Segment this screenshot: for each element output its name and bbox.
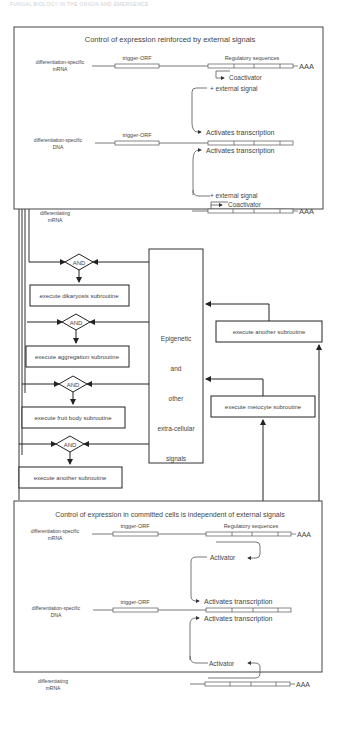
row-label: DNA <box>51 612 62 618</box>
orf-label: trigger-ORF <box>122 55 152 61</box>
and-label: AND <box>67 382 80 388</box>
bottom-panel-title: Control of expression in committed cells… <box>55 511 285 519</box>
row-label: mRNA <box>53 66 68 72</box>
trigger-orf-box <box>115 141 159 145</box>
coactivator-label: Coactivator <box>229 74 263 81</box>
and-label: AND <box>70 320 83 326</box>
orf-label: trigger-ORF <box>122 132 152 138</box>
row-label: DNA <box>53 144 64 150</box>
row-label: differentiation-specific <box>32 605 81 611</box>
poly-a-tail: AAA <box>299 207 314 216</box>
activates-transcription-label: Activates transcription <box>206 129 275 137</box>
reg-label: Regulatory sequences <box>224 523 279 529</box>
poly-a-tail: AAA <box>299 62 314 71</box>
row-label: mRNA <box>48 535 63 541</box>
subroutine-label: execute meiocyte subroutine <box>225 404 302 410</box>
activator-label: Activator <box>209 660 235 667</box>
activates-transcription-label: Activates transcription <box>206 147 275 155</box>
center-box-line: Epigenetic <box>161 335 192 343</box>
activates-transcription-label: Activates transcription <box>204 598 273 606</box>
top-panel: Control of expression reinforced by exte… <box>14 27 323 223</box>
flowchart: AAA Epigenetic and other extra-cellular … <box>19 207 322 505</box>
center-box-line: extra-cellular <box>157 425 195 432</box>
center-box-line: and <box>171 365 182 372</box>
subroutine-label: execute dikaryosis subroutine <box>39 293 119 299</box>
center-box-line: signals <box>166 455 187 463</box>
orf-label: trigger-ORF <box>120 523 150 529</box>
row-label: differentiating <box>38 678 68 684</box>
activator-label: Activator <box>210 554 236 561</box>
row-label: differentiation-specific <box>34 137 83 143</box>
top-panel-title: Control of expression reinforced by exte… <box>85 35 256 44</box>
row-label: mRNA <box>46 685 61 691</box>
center-box-line: other <box>169 395 185 402</box>
subroutine-label: execute fruit body subroutine <box>34 415 112 421</box>
bottom-panel: Control of expression in committed cells… <box>14 501 322 691</box>
orf-label: trigger-ORF <box>120 599 150 605</box>
row-label: differentiation-specific <box>36 59 85 65</box>
poly-a-tail: AAA <box>296 681 310 688</box>
and-label: AND <box>73 260 86 266</box>
activates-transcription-label: Activates transcription <box>204 615 273 623</box>
poly-a-tail: AAA <box>297 531 311 538</box>
subroutine-label: execute aggregation subroutine <box>35 354 120 360</box>
diagram-canvas: Control of expression reinforced by exte… <box>0 0 338 739</box>
subroutine-label: execute another subroutine <box>233 329 306 335</box>
trigger-orf-box <box>115 64 159 68</box>
external-signal-label: + external signal <box>210 85 258 93</box>
row-label: differentiation-specific <box>31 528 80 534</box>
row-label: mRNA <box>48 217 63 223</box>
row-label: differentiating <box>40 210 70 216</box>
external-signal-label: + external signal <box>210 192 258 200</box>
coactivator-label: Coactivator <box>228 201 262 208</box>
and-label: AND <box>64 442 77 448</box>
subroutine-label: execute another subroutine <box>34 475 107 481</box>
reg-label: Regulatory sequences <box>225 55 280 61</box>
